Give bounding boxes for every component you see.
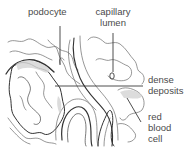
red-blood-cell-leader bbox=[127, 98, 141, 122]
capillary-lumen-marker bbox=[110, 73, 114, 79]
label-dense: dense bbox=[148, 74, 174, 85]
label-podocyte: podocyte bbox=[28, 6, 67, 17]
label-deposits: deposits bbox=[148, 85, 183, 96]
label-blood: blood bbox=[148, 122, 171, 133]
label-lumen: lumen bbox=[93, 17, 133, 28]
glomerulus-diagram: podocyte capillary lumen dense deposits … bbox=[0, 0, 190, 162]
label-capillary: capillary bbox=[93, 6, 133, 17]
label-cell: cell bbox=[148, 133, 162, 144]
label-red: red bbox=[148, 111, 162, 122]
